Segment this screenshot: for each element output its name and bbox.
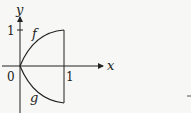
x-tick-label: 1 bbox=[66, 70, 74, 84]
y-tick-label: 1 bbox=[7, 24, 15, 38]
origin-label: 0 bbox=[7, 70, 15, 84]
curve-f bbox=[20, 30, 64, 66]
x-axis-label: x bbox=[107, 58, 115, 73]
curve-f-label: f bbox=[31, 26, 39, 41]
curve-g-label: g bbox=[30, 90, 38, 105]
graph-diagram: y x 1 0 1 f g bbox=[0, 0, 191, 113]
curve-g bbox=[20, 66, 64, 103]
y-axis-label: y bbox=[15, 2, 24, 17]
